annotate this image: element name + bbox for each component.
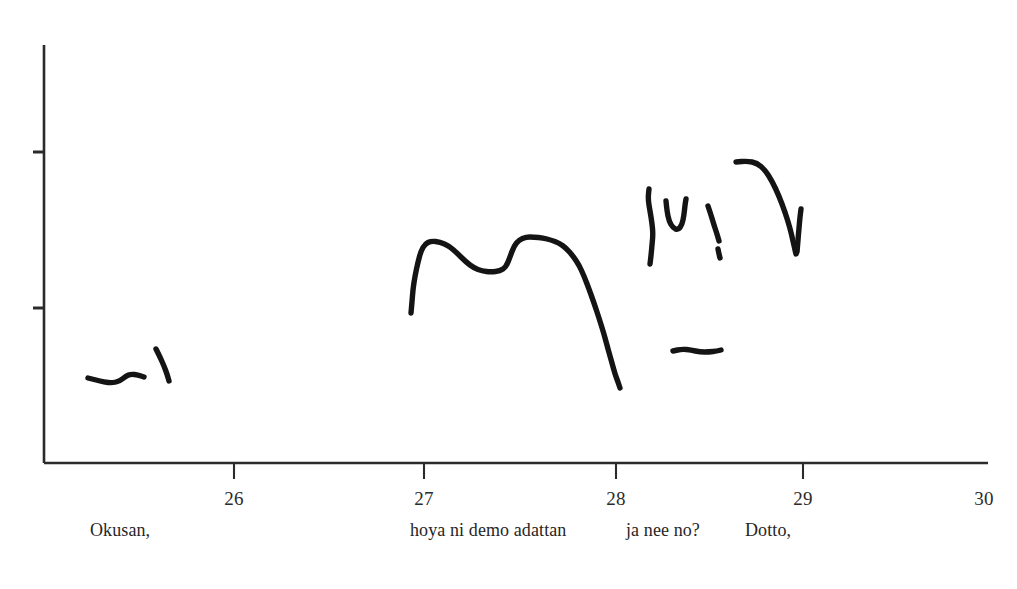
pitch-contour-figure: 2627282930 Okusan,hoya ni demo adattanja… bbox=[0, 0, 1017, 589]
utterance-token-0: Okusan, bbox=[90, 520, 150, 541]
f0-segment-1 bbox=[88, 374, 144, 382]
x-tick-label-30: 30 bbox=[964, 488, 1004, 510]
x-tick-label-28: 28 bbox=[596, 488, 636, 510]
f0-segment-10 bbox=[673, 349, 721, 352]
f0-segment-7 bbox=[718, 249, 720, 258]
f0-segment-4 bbox=[648, 189, 652, 264]
x-tick-label-26: 26 bbox=[214, 488, 254, 510]
x-tick-label-27: 27 bbox=[404, 488, 444, 510]
f0-segment-8 bbox=[736, 161, 796, 254]
f0-segment-9 bbox=[797, 209, 801, 252]
f0-segment-5 bbox=[666, 199, 686, 229]
utterance-token-3: Dotto, bbox=[745, 520, 791, 541]
x-tick-label-29: 29 bbox=[783, 488, 823, 510]
f0-contour-group bbox=[88, 161, 801, 388]
utterance-token-1: hoya ni demo adattan bbox=[410, 520, 566, 541]
f0-segment-2 bbox=[156, 349, 169, 381]
f0-segment-6 bbox=[708, 206, 719, 241]
plot-canvas bbox=[0, 0, 1017, 589]
utterance-token-2: ja nee no? bbox=[626, 520, 700, 541]
f0-segment-3 bbox=[411, 237, 620, 388]
